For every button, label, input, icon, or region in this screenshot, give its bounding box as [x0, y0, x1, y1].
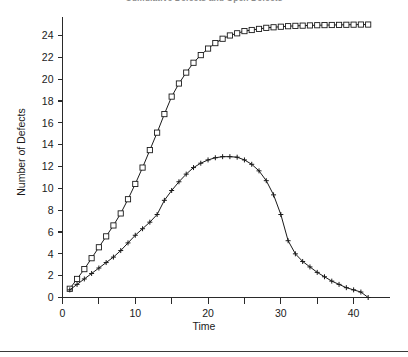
data-series-layer — [67, 22, 371, 300]
data-point-marker — [220, 154, 225, 159]
data-point-marker — [191, 60, 196, 65]
data-point-marker — [322, 23, 327, 28]
data-point-marker — [140, 165, 145, 170]
x-tick-label: 10 — [129, 307, 141, 319]
data-point-marker — [162, 111, 167, 116]
data-point-marker — [329, 22, 334, 27]
data-point-marker — [278, 212, 283, 217]
data-point-marker — [286, 238, 291, 243]
axis-lines — [63, 17, 391, 298]
data-point-marker — [336, 22, 341, 27]
data-point-marker — [169, 94, 174, 99]
data-point-marker — [256, 26, 261, 31]
data-point-marker — [184, 70, 189, 75]
x-tick-label: 0 — [60, 307, 66, 319]
data-point-marker — [242, 29, 247, 34]
y-tick-label: 2 — [48, 269, 54, 281]
x-axis-ticks: 010203040 — [60, 298, 360, 319]
data-point-marker — [198, 53, 203, 58]
data-point-marker — [322, 274, 327, 279]
data-point-marker — [133, 181, 138, 186]
data-point-marker — [206, 157, 211, 162]
data-point-marker — [125, 197, 130, 202]
y-tick-label: 18 — [42, 95, 54, 107]
data-point-marker — [358, 22, 363, 27]
data-point-marker — [344, 22, 349, 27]
data-point-marker — [155, 130, 160, 135]
data-point-marker — [242, 157, 247, 162]
data-point-marker — [89, 256, 94, 261]
data-point-marker — [227, 154, 232, 159]
data-point-marker — [351, 22, 356, 27]
data-point-marker — [235, 155, 240, 160]
x-tick-label: 20 — [202, 307, 214, 319]
data-point-marker — [264, 25, 269, 30]
y-tick-label: 20 — [42, 73, 54, 85]
footer-divider — [0, 351, 408, 352]
data-point-marker — [286, 24, 291, 29]
y-tick-label: 10 — [42, 182, 54, 194]
data-point-marker — [213, 41, 218, 46]
data-point-marker — [205, 46, 210, 51]
data-point-marker — [220, 36, 225, 41]
data-point-marker — [96, 245, 101, 250]
data-point-marker — [104, 234, 109, 239]
data-point-marker — [227, 33, 232, 38]
data-point-marker — [235, 31, 240, 36]
x-tick-label: 30 — [275, 307, 287, 319]
y-tick-label: 4 — [48, 248, 54, 260]
data-point-marker — [198, 161, 203, 166]
x-tick-label: 40 — [348, 307, 360, 319]
y-tick-label: 22 — [42, 51, 54, 63]
data-point-marker — [213, 155, 218, 160]
data-point-marker — [271, 192, 276, 197]
y-tick-label: 8 — [48, 204, 54, 216]
data-point-marker — [176, 81, 181, 86]
data-point-marker — [315, 23, 320, 28]
data-point-marker — [118, 211, 123, 216]
data-point-marker — [344, 285, 349, 290]
data-point-marker — [82, 267, 87, 272]
y-axis-ticks: 024681012141618202224 — [42, 29, 63, 303]
data-point-marker — [293, 23, 298, 28]
series-1 — [67, 22, 371, 291]
data-point-marker — [249, 27, 254, 32]
data-point-marker — [147, 148, 152, 153]
data-point-marker — [300, 23, 305, 28]
data-point-marker — [74, 276, 79, 281]
chart-figure: Cumulative Defects and Open Defects Numb… — [0, 0, 408, 357]
y-tick-label: 12 — [42, 160, 54, 172]
data-point-marker — [329, 279, 334, 284]
data-point-marker — [278, 24, 283, 29]
data-point-marker — [271, 25, 276, 30]
plot-area: 024681012141618202224 010203040 — [0, 0, 408, 357]
y-tick-label: 16 — [42, 117, 54, 129]
data-point-marker — [366, 22, 371, 27]
data-point-marker — [307, 23, 312, 28]
y-tick-label: 14 — [42, 138, 54, 150]
data-point-marker — [351, 287, 356, 292]
data-point-marker — [337, 282, 342, 287]
y-tick-label: 0 — [48, 291, 54, 303]
data-point-marker — [111, 223, 116, 228]
series-line — [70, 25, 368, 289]
y-tick-label: 6 — [48, 226, 54, 238]
y-tick-label: 24 — [42, 29, 54, 41]
